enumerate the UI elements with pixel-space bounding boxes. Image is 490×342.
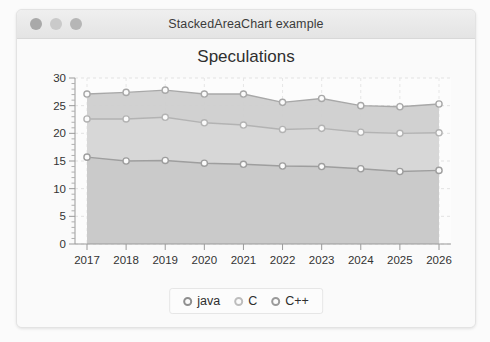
svg-text:2021: 2021 [231, 254, 257, 266]
svg-text:10: 10 [53, 183, 66, 195]
legend-item-c[interactable]: C [234, 294, 257, 308]
chart-title: Speculations [17, 47, 475, 67]
legend-item-java[interactable]: java [183, 294, 220, 308]
legend-marker-java [183, 297, 192, 306]
svg-text:2017: 2017 [74, 254, 100, 266]
legend-label-c: C [248, 294, 257, 308]
legend-label-cpp: C++ [285, 294, 309, 308]
legend-item-cpp[interactable]: C++ [271, 294, 309, 308]
window-titlebar[interactable]: StackedAreaChart example [17, 10, 475, 39]
svg-text:25: 25 [53, 100, 66, 112]
svg-text:2019: 2019 [152, 254, 178, 266]
application-window: StackedAreaChart example Speculations 05… [16, 9, 476, 328]
svg-text:0: 0 [60, 238, 66, 250]
chart-legend: java C C++ [169, 288, 323, 314]
svg-text:2025: 2025 [387, 254, 413, 266]
svg-text:15: 15 [53, 155, 66, 167]
svg-text:2026: 2026 [426, 254, 452, 266]
window-content: Speculations 051015202530201720182019202… [17, 39, 475, 328]
svg-text:2018: 2018 [113, 254, 139, 266]
svg-text:2024: 2024 [348, 254, 374, 266]
stacked-area-chart: 0510152025302017201820192020202120222023… [29, 72, 463, 284]
svg-text:30: 30 [53, 72, 66, 84]
svg-text:20: 20 [53, 127, 66, 139]
legend-marker-cpp [271, 297, 280, 306]
svg-text:5: 5 [60, 210, 66, 222]
legend-label-java: java [197, 294, 220, 308]
legend-marker-c [234, 297, 243, 306]
svg-text:2020: 2020 [192, 254, 218, 266]
screenshot-root: StackedAreaChart example Speculations 05… [0, 0, 490, 342]
chart-plot-area: 0510152025302017201820192020202120222023… [29, 72, 463, 284]
svg-text:2022: 2022 [270, 254, 296, 266]
svg-text:2023: 2023 [309, 254, 335, 266]
window-title: StackedAreaChart example [17, 10, 475, 38]
